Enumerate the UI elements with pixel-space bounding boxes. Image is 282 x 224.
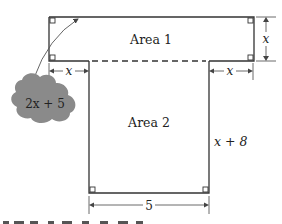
area-1-label: Area 1 (129, 32, 172, 47)
cloud-label: 2x + 5 (25, 97, 65, 111)
right-angle-icon (203, 187, 208, 192)
left-overhang-label: x (66, 64, 73, 78)
right-angle-icon (50, 55, 55, 60)
area-2-label: Area 2 (127, 115, 170, 130)
bottom-height-text: x + 8 (214, 134, 247, 149)
right-angle-icon (248, 55, 253, 60)
top-height-label: x (263, 32, 270, 46)
t-shape-area-diagram: Area 1 Area 2 x x x x + 8 (0, 0, 282, 224)
right-angle-icon (50, 18, 55, 23)
right-angle-icon (248, 18, 253, 23)
right-angle-icon (90, 187, 95, 192)
bottom-width-label: 5 (145, 199, 153, 213)
right-overhang-label: x (227, 64, 234, 78)
cutoff-caption (3, 221, 143, 224)
bottom-height-label: x + 8 (214, 134, 247, 149)
